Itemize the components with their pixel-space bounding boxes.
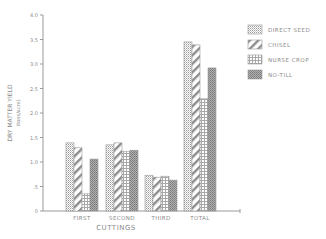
legend-label: NO-TILL (268, 72, 293, 78)
bar-group-third: THIRD (145, 175, 177, 221)
bar-nurse-crop (200, 99, 208, 211)
x-axis-label: CUTTINGS (96, 224, 136, 232)
legend-swatch (248, 70, 262, 79)
legend-swatch (248, 25, 262, 34)
bar-nurse-crop (161, 176, 169, 211)
bar-group-total: TOTAL (184, 42, 216, 221)
bar-no-till (169, 180, 177, 211)
y-tick-label: 2.5 (30, 86, 38, 92)
y-tick-label: 0 (35, 208, 38, 214)
bars: FIRSTSECONDTHIRDTOTAL (66, 42, 216, 221)
legend-label: DIRECT SEED (268, 27, 310, 33)
bar-direct-seed (184, 42, 192, 211)
y-axis-label: DRY MATTER YIELD (6, 84, 13, 141)
bar-chart: 0.51.01.52.02.53.03.54.0 FIRSTSECONDTHIR… (0, 0, 326, 239)
x-tick-label: THIRD (150, 215, 170, 221)
bar-chisel (153, 177, 161, 211)
y-tick-label: 4.0 (30, 12, 38, 18)
bar-direct-seed (66, 143, 74, 211)
y-tick-label: 3.0 (30, 61, 38, 67)
bar-chisel (114, 143, 122, 211)
x-tick-label: FIRST (73, 215, 91, 221)
legend-label: NURSE CROP (268, 57, 309, 63)
bar-direct-seed (145, 175, 153, 211)
legend-swatch (248, 40, 262, 49)
legend-item-chisel: CHISEL (248, 40, 291, 49)
legend-item-no-till: NO-TILL (248, 70, 293, 79)
y-tick-label: 2.0 (30, 110, 38, 116)
legend: DIRECT SEEDCHISELNURSE CROPNO-TILL (248, 25, 310, 79)
bar-group-second: SECOND (106, 143, 138, 221)
bar-group-first: FIRST (66, 143, 98, 221)
bar-nurse-crop (82, 194, 90, 211)
x-tick-label: TOTAL (189, 215, 210, 221)
legend-label: CHISEL (268, 42, 291, 48)
bar-no-till (130, 150, 138, 211)
y-tick-label: .5 (33, 184, 38, 190)
y-tick-label: 1.5 (30, 135, 38, 141)
y-tick-label: 1.0 (30, 159, 38, 165)
bar-chisel (192, 45, 200, 211)
y-tick-label: 3.5 (30, 37, 38, 43)
bar-no-till (90, 159, 98, 211)
y-axis: 0.51.01.52.02.53.03.54.0 (30, 12, 43, 214)
bar-chisel (74, 148, 82, 211)
bar-no-till (208, 68, 216, 211)
x-tick-label: SECOND (109, 215, 135, 221)
legend-swatch (248, 55, 262, 64)
legend-item-direct-seed: DIRECT SEED (248, 25, 310, 34)
bar-nurse-crop (122, 151, 130, 211)
bar-direct-seed (106, 145, 114, 211)
legend-item-nurse-crop: NURSE CROP (248, 55, 309, 64)
y-axis-units-label: (tons/acre) (15, 99, 21, 126)
